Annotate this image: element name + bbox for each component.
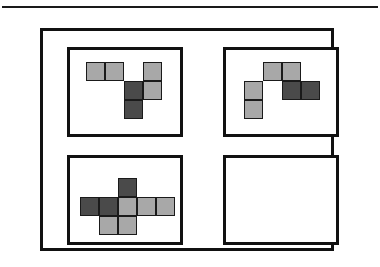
block-cell[interactable] [282,62,301,81]
figure-root [0,0,380,267]
block-cell[interactable] [301,81,320,100]
block-cell[interactable] [118,178,137,197]
block-cell[interactable] [118,197,137,216]
top-horizontal-rule [2,6,378,8]
block-cell[interactable] [86,62,105,81]
block-cell[interactable] [143,62,162,81]
outer-frame [40,28,334,251]
block-cell[interactable] [282,81,301,100]
block-cell[interactable] [99,216,118,235]
block-cell[interactable] [244,100,263,119]
block-cell[interactable] [80,197,99,216]
panel-bottom-right[interactable] [223,155,339,245]
panel-bottom-left[interactable] [67,155,183,245]
shape-bottom-right [226,158,336,242]
panel-top-left[interactable] [67,47,183,137]
panel-grid [43,31,331,248]
panel-top-right[interactable] [223,47,339,137]
block-cell[interactable] [124,100,143,119]
block-cell[interactable] [124,81,143,100]
shape-bottom-left [70,158,180,242]
block-cell[interactable] [156,197,175,216]
shape-top-right [226,50,336,134]
block-cell[interactable] [99,197,118,216]
block-cell[interactable] [143,81,162,100]
block-cell[interactable] [105,62,124,81]
shape-top-left [70,50,180,134]
block-cell[interactable] [137,197,156,216]
block-cell[interactable] [244,81,263,100]
block-cell[interactable] [118,216,137,235]
block-cell[interactable] [263,62,282,81]
